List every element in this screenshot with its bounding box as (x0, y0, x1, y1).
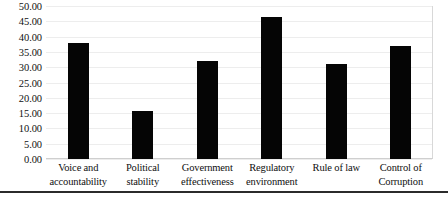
y-axis-tick-label: 20.00 (19, 92, 42, 103)
bar (68, 43, 89, 159)
x-axis-tick-label-line: environment (229, 175, 315, 189)
x-axis-tick-label-line: Corruption (358, 175, 444, 189)
bar (390, 46, 411, 159)
y-axis-tick-label: 15.00 (19, 108, 42, 119)
bar (132, 111, 153, 159)
y-axis-tick-label: 45.00 (19, 16, 42, 27)
bar-series (46, 6, 433, 159)
y-axis-tick-label: 10.00 (19, 123, 42, 134)
x-axis-tick-label: Control ofCorruption (358, 161, 444, 188)
y-axis-tick-label: 5.00 (24, 138, 42, 149)
y-axis-tick-label: 25.00 (19, 77, 42, 88)
y-axis-tick-label: 30.00 (19, 62, 42, 73)
y-axis: 50.0045.0040.0035.0030.0025.0020.0015.00… (0, 6, 42, 159)
gridline (46, 159, 432, 160)
x-axis-tick-label-line: Control of (358, 161, 444, 175)
bottom-divider (0, 191, 448, 193)
y-axis-tick-label: 40.00 (19, 31, 42, 42)
x-axis: Voice andaccountabilityPoliticalstabilit… (46, 161, 433, 193)
y-axis-tick-label: 35.00 (19, 46, 42, 57)
bar (261, 17, 282, 159)
bar (197, 61, 218, 159)
y-axis-tick-label: 50.00 (19, 1, 42, 12)
bar (326, 64, 347, 159)
bar-chart-figure: 50.0045.0040.0035.0030.0025.0020.0015.00… (0, 0, 448, 201)
